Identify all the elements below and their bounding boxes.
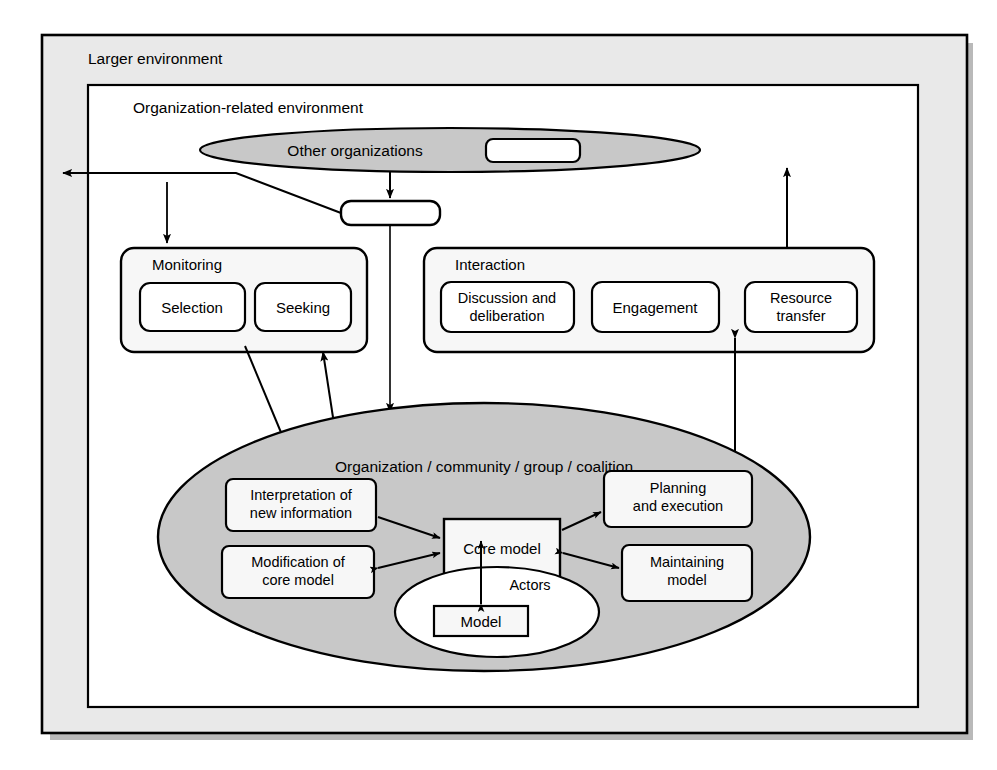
discussion-label-line2: deliberation: [470, 308, 545, 324]
model-label: Model: [461, 613, 502, 630]
modification-label-line2: core model: [262, 572, 334, 588]
diagram-svg: Larger environment Organization-related …: [0, 0, 997, 770]
maintaining-label-line2: model: [667, 572, 707, 588]
other-organizations-inner-box: [486, 139, 580, 162]
other-organizations-ellipse: [200, 128, 700, 172]
maintaining-label-line1: Maintaining: [650, 554, 724, 570]
interaction-label: Interaction: [455, 256, 525, 273]
modification-label-line1: Modification of: [251, 554, 345, 570]
interpretation-label-line1: Interpretation of: [250, 487, 353, 503]
selection-label: Selection: [161, 299, 223, 316]
discussion-label-line1: Discussion and: [458, 290, 556, 306]
interpretation-label-line2: new information: [250, 505, 352, 521]
larger-environment-label: Larger environment: [88, 50, 223, 67]
other-organizations-label: Other organizations: [287, 142, 423, 159]
seeking-label: Seeking: [276, 299, 330, 316]
resource-transfer-label-line1: Resource: [770, 290, 832, 306]
engagement-label: Engagement: [612, 299, 698, 316]
monitoring-label: Monitoring: [152, 256, 222, 273]
core-model-label: Core model: [463, 540, 541, 557]
organization-related-environment-label: Organization-related environment: [133, 99, 364, 116]
diagram-canvas: Larger environment Organization-related …: [0, 0, 997, 770]
planning-label-line2: and execution: [633, 498, 723, 514]
planning-label-line1: Planning: [650, 480, 706, 496]
connector-box: [341, 201, 440, 225]
organization-title: Organization / community / group / coali…: [335, 458, 633, 475]
actors-label: Actors: [509, 577, 550, 593]
resource-transfer-label-line2: transfer: [776, 308, 825, 324]
